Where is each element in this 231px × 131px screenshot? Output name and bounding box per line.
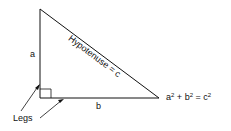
formula-exp-a: 2: [171, 92, 174, 98]
right-angle-marker: [40, 89, 51, 98]
formula-b: b: [185, 92, 190, 102]
side-b-label: b: [96, 102, 101, 111]
pythagorean-diagram: a b Hypotenuse = c Legs a2 + b2 = c2: [0, 0, 231, 131]
legs-arrow-a: [21, 85, 39, 111]
side-a-label: a: [30, 50, 35, 59]
formula-equals: =: [193, 92, 203, 102]
legs-arrow-b: [40, 100, 62, 118]
formula-plus: +: [174, 92, 184, 102]
formula-exp-b: 2: [190, 92, 193, 98]
formula-exp-c: 2: [208, 92, 211, 98]
pythagorean-formula: a2 + b2 = c2: [166, 93, 211, 102]
legs-label: Legs: [13, 114, 33, 123]
